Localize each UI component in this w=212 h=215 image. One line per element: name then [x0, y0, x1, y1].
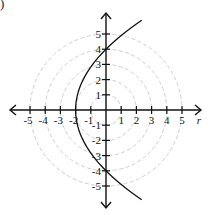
x-tick-label: 1 [118, 114, 124, 126]
y-tick-label: 5 [96, 28, 102, 40]
y-tick-label: -2 [92, 134, 101, 146]
x-tick-label: 4 [164, 114, 170, 126]
y-tick-label: -4 [92, 165, 102, 177]
x-axis-label-r: r [197, 114, 202, 126]
x-tick-label: 2 [134, 114, 140, 126]
y-tick-label: -3 [92, 150, 102, 162]
x-tick-label: 3 [149, 114, 155, 126]
x-tick-label: -4 [39, 114, 49, 126]
x-tick-label: -3 [54, 114, 64, 126]
x-tick-label: -5 [23, 114, 33, 126]
axes [10, 13, 201, 208]
y-tick-label: 2 [96, 74, 102, 86]
y-tick-label: 4 [96, 43, 102, 55]
x-tick-label: -2 [69, 114, 78, 126]
y-tick-label: -5 [92, 180, 102, 192]
y-tick-label: 3 [96, 58, 102, 70]
y-tick-label: 1 [96, 89, 102, 101]
y-tick-label: -1 [92, 119, 101, 131]
polar-chart: -5-4-3-2-11234554321-1-2-3-4-5r [0, 0, 212, 215]
x-tick-label: 5 [179, 114, 185, 126]
